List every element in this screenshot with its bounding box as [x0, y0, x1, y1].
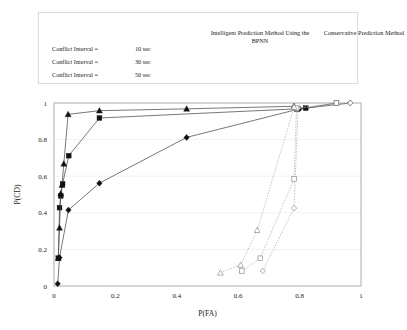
- marker-square: [97, 116, 102, 121]
- y-axis-tick-labels: 00.20.40.60.81: [38, 100, 47, 291]
- y-tick-3: 0.6: [38, 173, 47, 181]
- x-tick-2: 0.4: [172, 292, 181, 300]
- plot-frame: [54, 103, 361, 286]
- series-4: [240, 101, 339, 274]
- marker-square: [334, 101, 339, 106]
- series-line: [263, 103, 350, 271]
- marker-triangle: [238, 262, 244, 267]
- y-tick-5: 1: [44, 100, 48, 108]
- y-tick-1: 0.2: [38, 246, 47, 254]
- marker-square: [57, 205, 62, 210]
- marker-diamond: [291, 205, 296, 211]
- marker-diamond: [260, 268, 265, 274]
- series-line: [58, 106, 294, 258]
- legend-row-label-0: Conflict Interval =: [52, 45, 98, 52]
- marker-triangle: [58, 190, 64, 196]
- legend-row-value-2: 50 sec: [135, 71, 151, 78]
- x-tick-4: 0.8: [295, 292, 304, 300]
- chart-series-layer: [55, 100, 353, 287]
- marker-square: [292, 177, 297, 182]
- x-axis-title: P(FA): [198, 309, 217, 318]
- y-tick-0: 0: [44, 283, 48, 291]
- marker-triangle: [57, 225, 63, 231]
- x-tick-5: 1: [359, 292, 363, 300]
- series-line: [220, 107, 294, 273]
- series-2: [55, 103, 297, 260]
- y-tick-2: 0.4: [38, 209, 47, 217]
- series-line: [242, 103, 337, 271]
- legend-header-bpnn: Intelligent Prediction Method Using the …: [207, 29, 313, 44]
- x-tick-0: 0: [52, 292, 56, 300]
- series-0: [55, 100, 353, 287]
- marker-square: [258, 256, 263, 261]
- y-axis-title: P(CD): [13, 184, 22, 204]
- x-axis-tick-labels: 00.20.40.60.81: [52, 292, 363, 300]
- marker-triangle: [61, 161, 67, 167]
- series-line: [58, 103, 351, 284]
- series-3: [260, 100, 353, 274]
- legend-row-value-0: 10 sec: [135, 45, 151, 52]
- y-tick-4: 0.8: [38, 136, 47, 144]
- marker-square: [240, 269, 245, 274]
- legend-row-value-1: 30 sec: [135, 58, 151, 65]
- marker-diamond: [348, 100, 353, 106]
- marker-triangle: [254, 227, 260, 232]
- legend-header-conservative: Conservative Prediction Method: [321, 29, 407, 37]
- legend-row-label-2: Conflict Interval =: [52, 71, 98, 78]
- marker-square: [66, 153, 71, 158]
- legend-row-label-1: Conflict Interval =: [52, 58, 98, 65]
- x-tick-3: 0.6: [234, 292, 243, 300]
- chart-gridlines: [54, 140, 361, 250]
- x-tick-1: 0.2: [111, 292, 120, 300]
- marker-triangle: [218, 270, 224, 275]
